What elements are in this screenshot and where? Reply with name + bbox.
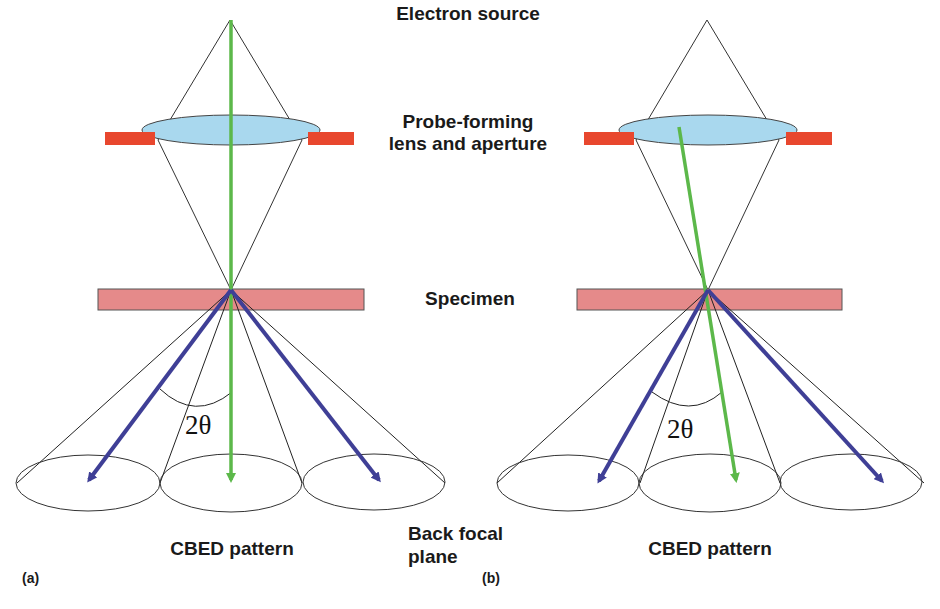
label-probe-lens-line2: lens and aperture [362, 133, 574, 155]
diffracted-beam-left [89, 290, 231, 480]
diffracted-beam-right [231, 290, 379, 480]
label-back-focal-line1: Back focal [408, 523, 503, 545]
disk-right-b [780, 454, 922, 510]
label-probe-lens-line1: Probe-forming [362, 111, 574, 133]
disk-right [303, 454, 445, 510]
aperture-right [308, 132, 354, 145]
disk-center-b [639, 454, 781, 512]
panel-a [16, 20, 445, 512]
aperture-left [105, 132, 155, 145]
angle-arc [160, 389, 232, 406]
diffracted-beam-left-b [599, 290, 708, 481]
diffracted-beam-right-b [708, 290, 882, 481]
converging-cone-b [636, 140, 779, 290]
label-cbed-pattern-b: CBED pattern [620, 538, 800, 560]
disk-left-b [497, 455, 639, 511]
angle-label-b: 2θ [667, 414, 693, 445]
angle-arc-b [652, 392, 722, 406]
cbed-disks-b [497, 454, 922, 512]
label-cbed-pattern-a: CBED pattern [142, 538, 322, 560]
panel-label-b: (b) [482, 570, 500, 586]
panel-b [497, 20, 924, 512]
label-electron-source: Electron source [370, 3, 566, 25]
aperture-left-b [584, 132, 634, 145]
disk-left [16, 455, 160, 511]
angle-label-a: 2θ [185, 410, 211, 441]
label-specimen: Specimen [400, 288, 540, 310]
label-back-focal-line2: plane [408, 546, 458, 568]
aperture-right-b [786, 132, 832, 145]
panel-label-a: (a) [22, 570, 39, 586]
probe-lens-b [619, 115, 797, 145]
